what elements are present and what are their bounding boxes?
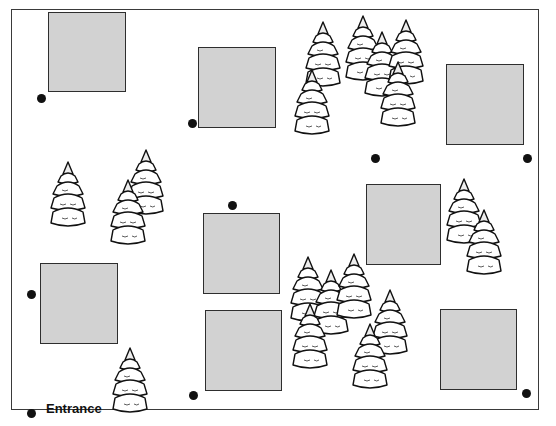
entrance-label: Entrance bbox=[46, 401, 102, 416]
tree-icon bbox=[292, 302, 328, 378]
marker-dot bbox=[27, 409, 36, 418]
building bbox=[40, 263, 118, 344]
tree-icon bbox=[294, 68, 330, 144]
building bbox=[205, 310, 282, 391]
tree-icon bbox=[110, 178, 146, 254]
building bbox=[48, 12, 126, 92]
tree-icon bbox=[336, 252, 372, 328]
building bbox=[446, 64, 524, 145]
marker-dot bbox=[228, 201, 237, 210]
tree-icon bbox=[466, 208, 502, 284]
marker-dot bbox=[371, 154, 380, 163]
tree-icon bbox=[50, 160, 86, 236]
building bbox=[366, 184, 441, 265]
building bbox=[440, 309, 517, 390]
marker-dot bbox=[27, 290, 36, 299]
marker-dot bbox=[188, 119, 197, 128]
marker-dot bbox=[37, 94, 46, 103]
tree-icon bbox=[112, 346, 148, 422]
marker-dot bbox=[189, 391, 198, 400]
tree-icon bbox=[380, 60, 416, 136]
building bbox=[203, 213, 280, 294]
tree-icon bbox=[352, 322, 388, 398]
marker-dot bbox=[523, 154, 532, 163]
marker-dot bbox=[522, 389, 531, 398]
building bbox=[198, 47, 276, 128]
